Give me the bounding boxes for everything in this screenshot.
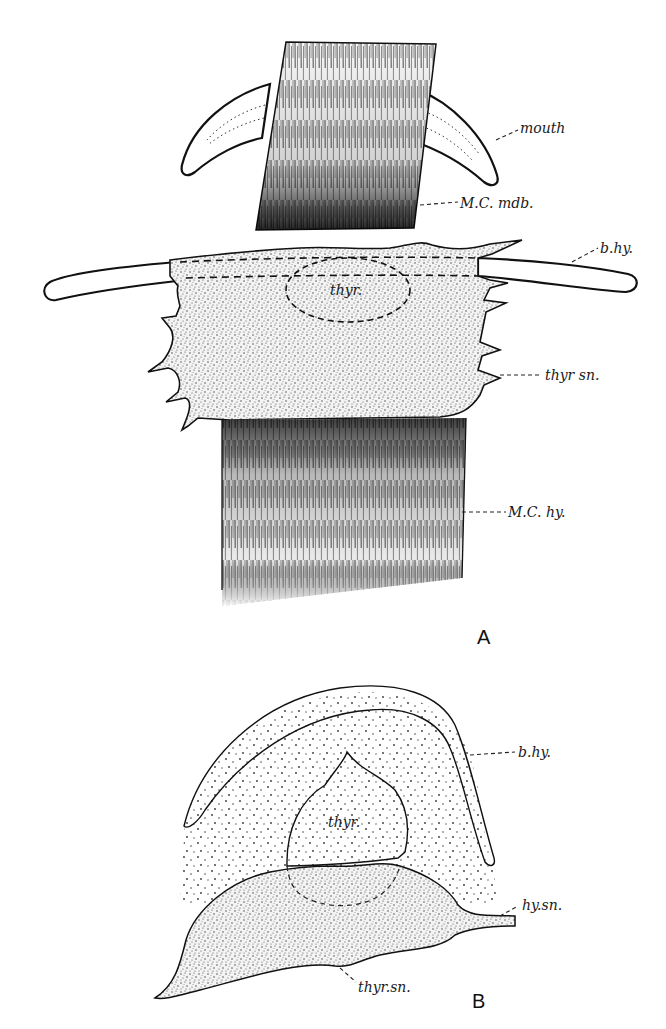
basihyal-right [478, 258, 637, 292]
thyroid-sinus-plate [148, 240, 522, 430]
label-mouth: mouth [520, 120, 565, 136]
label-thyr-b: thyr. [328, 814, 360, 830]
label-mc-hy: M.C. hy. [507, 504, 565, 520]
label-thyr-sn: thyr sn. [545, 367, 599, 383]
label-mc-mdb: M.C. mdb. [459, 195, 534, 211]
panel-label-a: A [477, 626, 491, 648]
label-thyr-sn-b: thyr.sn. [358, 979, 411, 995]
label-hy-sn: hy.sn. [522, 897, 562, 913]
figure-canvas: mouth M.C. mdb. b.hy. thyr. thyr sn. M.C… [0, 0, 666, 1029]
label-b-hy: b.hy. [600, 240, 633, 256]
panel-label-b: B [472, 990, 485, 1012]
mouth-left-lobe [182, 84, 270, 175]
label-thyr: thyr. [330, 282, 362, 298]
panel-a: mouth M.C. mdb. b.hy. thyr. thyr sn. M.C… [44, 42, 636, 648]
label-b-hy-b: b.hy. [518, 744, 551, 760]
panel-b: b.hy. thyr. hy.sn. thyr.sn. B [155, 686, 562, 1012]
basihyal-left [44, 262, 186, 300]
